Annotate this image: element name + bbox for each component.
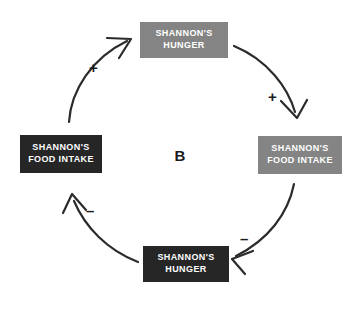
node-left-label: SHANNON'S FOOD INTAKE bbox=[28, 142, 94, 165]
arrow-bottom-to-left bbox=[74, 201, 138, 262]
node-shannons-hunger-top: SHANNON'S HUNGER bbox=[140, 22, 228, 58]
sign-right-to-bottom: – bbox=[240, 231, 248, 246]
arrow-left-to-top bbox=[69, 41, 127, 122]
loop-type-label: B bbox=[160, 140, 200, 170]
node-bottom-label: SHANNON'S HUNGER bbox=[157, 252, 214, 275]
arrow-top-to-right bbox=[234, 46, 295, 112]
arrow-right-to-bottom-head bbox=[232, 251, 253, 274]
node-top-label: SHANNON'S HUNGER bbox=[155, 28, 212, 51]
sign-left-to-top: + bbox=[89, 60, 98, 75]
node-shannons-food-intake-right: SHANNON'S FOOD INTAKE bbox=[258, 136, 342, 174]
sign-bottom-to-left: – bbox=[86, 203, 94, 218]
node-right-label: SHANNON'S FOOD INTAKE bbox=[267, 143, 333, 166]
node-shannons-food-intake-left: SHANNON'S FOOD INTAKE bbox=[20, 135, 102, 173]
node-shannons-hunger-bottom: SHANNON'S HUNGER bbox=[143, 246, 229, 282]
sign-top-to-right: + bbox=[268, 89, 277, 104]
balancing-loop-diagram: SHANNON'S HUNGER SHANNON'S FOOD INTAKE S… bbox=[0, 0, 362, 309]
